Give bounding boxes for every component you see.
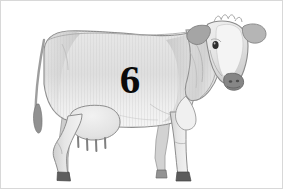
- eye: [212, 41, 218, 49]
- nostril-left: [229, 80, 232, 82]
- far-front-hoof: [156, 170, 167, 178]
- near-front-hoof: [176, 172, 191, 181]
- tail-tuft: [34, 104, 43, 133]
- nostril-right: [236, 80, 239, 82]
- eye-highlight: [214, 42, 216, 44]
- tail-group: [34, 40, 44, 133]
- cow-illustration-figure: 6: [0, 0, 283, 189]
- muzzle: [224, 73, 244, 90]
- brand-number: 6: [113, 57, 147, 101]
- near-hind-hoof: [57, 172, 71, 181]
